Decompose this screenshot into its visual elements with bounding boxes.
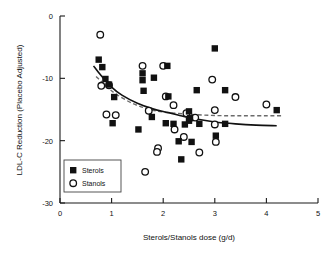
sterols-point xyxy=(163,120,169,126)
sterols-point xyxy=(135,126,141,132)
legend: Sterols Stanols xyxy=(64,160,121,192)
chart-canvas: 0-10-20-30 012345 Sterols/Stanols dose (… xyxy=(0,0,336,255)
stanols-point xyxy=(154,149,161,156)
stanols-point xyxy=(139,63,146,70)
stanols-point xyxy=(232,94,239,101)
x-axis-ticks xyxy=(60,198,318,203)
sterols-point xyxy=(140,88,146,94)
sterols-point xyxy=(170,121,176,127)
y-tick-label: 0 xyxy=(49,12,53,21)
sterols-point xyxy=(175,138,181,144)
sterols-point xyxy=(194,87,200,93)
x-tick-label: 0 xyxy=(58,209,62,218)
x-axis-title: Sterols/Stanols dose (g/d) xyxy=(143,233,235,242)
x-tick-label: 5 xyxy=(316,209,320,218)
stanols-point xyxy=(196,149,203,156)
sterols-point xyxy=(96,56,102,62)
stanols-point xyxy=(170,102,177,109)
x-tick-label: 3 xyxy=(213,209,217,218)
sterols-point xyxy=(186,108,192,114)
stanols-point xyxy=(103,111,110,118)
x-axis-tick-labels: 012345 xyxy=(58,209,320,218)
stanols-point xyxy=(97,31,104,38)
stanols-point xyxy=(112,112,119,119)
stanols-data-points xyxy=(97,31,270,175)
stanols-point xyxy=(98,83,105,90)
sterols-point xyxy=(111,94,117,100)
x-tick-label: 4 xyxy=(264,209,268,218)
sterols-point xyxy=(196,121,202,127)
sterols-point xyxy=(99,64,105,70)
stanols-point xyxy=(171,126,178,133)
sterols-point xyxy=(188,139,194,145)
stanols-point xyxy=(212,107,219,114)
y-tick-label: -30 xyxy=(42,199,53,208)
sterols-point xyxy=(222,87,228,93)
sterols-point xyxy=(102,76,108,82)
x-tick-label: 1 xyxy=(110,209,114,218)
legend-sterols-marker xyxy=(70,167,76,173)
stanols-point xyxy=(212,121,219,128)
sterols-point xyxy=(106,81,112,87)
sterols-point xyxy=(151,75,157,81)
legend-label-stanols: Stanols xyxy=(82,180,106,187)
legend-box xyxy=(64,160,121,192)
stanols-point xyxy=(145,107,152,114)
sterols-point xyxy=(274,107,280,113)
sterols-data-points xyxy=(96,45,280,162)
sterols-point xyxy=(178,156,184,162)
scatter-plot-figure: 0-10-20-30 012345 Sterols/Stanols dose (… xyxy=(0,0,336,255)
y-axis-tick-labels: 0-10-20-30 xyxy=(42,12,53,208)
y-axis-title: LDL-C Reduction (Placebo Adjusted) xyxy=(15,44,24,175)
stanols-point xyxy=(213,139,220,146)
sterols-point xyxy=(139,77,145,83)
sterols-point xyxy=(109,120,115,126)
sterols-point xyxy=(222,121,228,127)
sterols-point xyxy=(213,132,219,138)
y-tick-label: -10 xyxy=(42,74,53,83)
sterols-point xyxy=(212,45,218,51)
y-tick-label: -20 xyxy=(42,137,53,146)
stanols-point xyxy=(263,101,270,108)
stanols-point xyxy=(209,76,216,83)
sterols-point xyxy=(165,93,171,99)
x-tick-label: 2 xyxy=(161,209,165,218)
sterols-point xyxy=(139,70,145,76)
sterols-point xyxy=(164,63,170,69)
stanols-point xyxy=(142,169,149,176)
sterols-point xyxy=(187,115,193,121)
legend-label-sterols: Sterols xyxy=(82,167,104,174)
sterols-point xyxy=(182,121,188,127)
sterols-point xyxy=(149,114,155,120)
legend-stanols-marker xyxy=(70,180,77,187)
